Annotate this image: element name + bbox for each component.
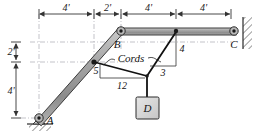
dim-label-4ft-1: 4' (62, 2, 70, 13)
slope-right-run-label: 3 (160, 67, 166, 78)
dim-label-4ft-2: 4' (145, 2, 153, 13)
vertical-dimension-chain (11, 42, 36, 118)
member-ab (36, 29, 123, 126)
dim-label-2ft: 2' (104, 2, 112, 13)
statics-frame-figure: 4' 2' 4' 4' 2' 4' B C A D Cords 5 12 4 3 (0, 0, 262, 136)
joint-label-b: B (114, 38, 121, 50)
slope-left-rise-label: 5 (94, 65, 99, 76)
wall-support-right (243, 17, 252, 49)
joint-label-a: A (46, 114, 54, 126)
dim-label-4ft-3: 4' (200, 2, 208, 13)
cord-left (94, 62, 147, 76)
dim-label-4ft-vertical: 4' (7, 85, 15, 96)
figure-canvas: 4' 2' 4' 4' 2' 4' B C A D Cords 5 12 4 3 (0, 0, 262, 136)
cords-callout-label: Cords (118, 52, 145, 64)
slope-right-rise-label: 4 (180, 43, 185, 54)
joint-label-c: C (230, 38, 238, 50)
block-label-d: D (143, 102, 152, 114)
slope-left-run-label: 12 (117, 80, 127, 91)
dim-label-2ft-vertical: 2' (7, 46, 15, 57)
